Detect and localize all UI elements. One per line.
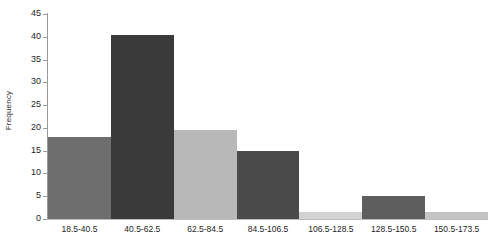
- y-axis-tick: [43, 196, 47, 197]
- y-axis-tick: [43, 128, 47, 129]
- bar-slot: [425, 14, 488, 219]
- y-axis-tick: [43, 151, 47, 152]
- bar[interactable]: [237, 151, 300, 219]
- y-axis-tick: [43, 37, 47, 38]
- bar[interactable]: [362, 196, 425, 219]
- bar[interactable]: [48, 137, 111, 219]
- figure-caption: [0, 243, 496, 250]
- y-axis-tick: [43, 105, 47, 106]
- bar-slot: [299, 14, 362, 219]
- x-axis-tick-label: 40.5-62.5: [111, 224, 174, 234]
- bar-slot: [362, 14, 425, 219]
- y-axis-tick-label: 5: [1, 191, 41, 200]
- y-axis-tick: [43, 14, 47, 15]
- bar[interactable]: [425, 212, 488, 219]
- y-axis-tick-label: 45: [1, 9, 41, 18]
- x-axis-labels: 18.5-40.540.5-62.562.5-84.584.5-106.5106…: [48, 224, 488, 234]
- y-axis-tick-label: 15: [1, 146, 41, 155]
- bar-slot: [237, 14, 300, 219]
- x-axis-tick-label: 84.5-106.5: [237, 224, 300, 234]
- y-axis-tick-label: 30: [1, 77, 41, 86]
- bar-slot: [48, 14, 111, 219]
- bar[interactable]: [299, 212, 362, 219]
- bar[interactable]: [111, 35, 174, 220]
- y-axis-tick: [43, 82, 47, 83]
- y-axis-tick-label: 25: [1, 100, 41, 109]
- x-axis-tick-label: 150.5-173.5: [425, 224, 488, 234]
- bar-slot: [174, 14, 237, 219]
- y-axis-tick-label: 10: [1, 168, 41, 177]
- y-axis-tick-label: 0: [1, 214, 41, 223]
- y-axis-tick-label: 20: [1, 123, 41, 132]
- y-axis-tick: [43, 60, 47, 61]
- x-axis-tick-label: 106.5-128.5: [299, 224, 362, 234]
- y-axis-tick: [43, 173, 47, 174]
- x-axis-tick-label: 128.5-150.5: [362, 224, 425, 234]
- histogram-chart: Frequency 051015202530354045 18.5-40.540…: [0, 0, 496, 250]
- y-axis-tick-label: 40: [1, 32, 41, 41]
- x-axis-tick-label: 62.5-84.5: [174, 224, 237, 234]
- x-axis-tick-label: 18.5-40.5: [48, 224, 111, 234]
- y-axis-tick-label: 35: [1, 55, 41, 64]
- bar-slot: [111, 14, 174, 219]
- bar[interactable]: [174, 130, 237, 219]
- bar-series: [48, 14, 488, 219]
- y-axis-tick: [43, 219, 47, 220]
- y-axis-labels: 051015202530354045: [0, 0, 41, 250]
- x-axis-line: [47, 219, 488, 220]
